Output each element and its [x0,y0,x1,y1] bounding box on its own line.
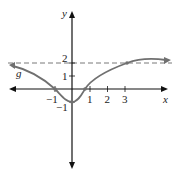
x-axis-label: x [162,93,168,105]
graph-figure: y x g −1 1 2 3 1 2 −1 [0,0,179,179]
y-tick-label-neg1: −1 [56,101,68,113]
x-tick-label-2: 2 [105,93,111,105]
x-tick-label-1: 1 [87,93,93,105]
x-axis-right-arrow-icon [161,86,168,92]
x-tick-label-3: 3 [122,93,128,105]
y-axis-label: y [61,7,67,19]
y-tick-label-1: 1 [62,70,68,82]
y-tick-label-2: 2 [62,52,68,64]
y-axis-down-arrow-icon [69,162,75,169]
x-axis-left-arrow-icon [9,86,16,92]
y-axis-up-arrow-icon [69,11,75,18]
function-label: g [16,67,22,79]
graph-svg: y x g −1 1 2 3 1 2 −1 [0,0,179,179]
